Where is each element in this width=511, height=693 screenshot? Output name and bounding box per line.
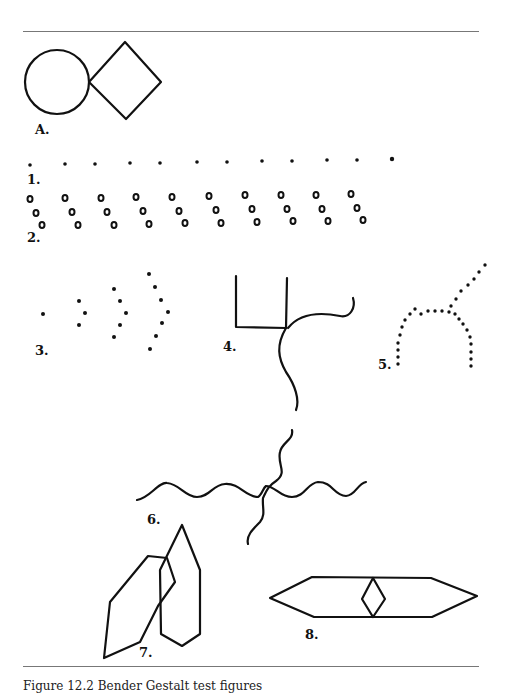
figure-5-label: 5. [378,357,392,372]
figure-6-label: 6. [147,512,161,527]
figure-8-label: 8. [305,627,319,642]
figure-7-label: 7. [139,645,153,660]
figure-4-label: 4. [223,339,237,354]
figure-3-dot-chevrons [41,272,170,351]
figure-1-label: 1. [27,172,41,187]
figure-6-wavy-cross [137,430,366,544]
figure-caption: Figure 12.2 Bender Gestalt test figures [23,679,262,693]
figure-8-hexagon-diamond [270,577,477,617]
figure-1-dot-row [28,157,394,167]
figure-a-label: A. [35,122,50,137]
figure-a-circle-diamond [25,42,161,119]
figure-2-label: 2. [27,230,41,245]
figure-5-dotted-arc [396,263,486,367]
figure-7-overlapping-hexagons [104,525,200,658]
figure-3-label: 3. [35,343,49,358]
figure-2-circle-columns [28,191,366,228]
figure-4-box-curve [236,276,354,410]
